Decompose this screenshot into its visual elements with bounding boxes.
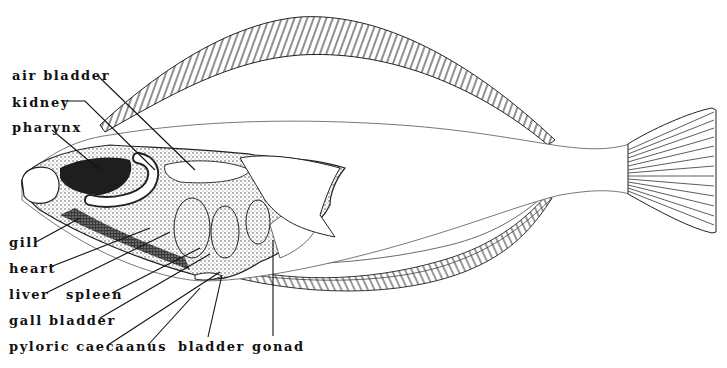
- leader-bladder: [208, 275, 222, 337]
- leader-anus: [148, 288, 200, 345]
- label-anus: anus: [126, 340, 167, 354]
- fish-anatomy-diagram: air bladder kidney pharynx gill heart li…: [0, 0, 727, 368]
- label-spleen: spleen: [66, 288, 123, 302]
- leader-pyloric-caeca: [108, 272, 220, 345]
- label-heart: heart: [9, 262, 56, 276]
- label-gall-bladder: gall bladder: [9, 314, 116, 328]
- label-gill: gill: [9, 236, 39, 250]
- label-bladder: bladder: [178, 340, 245, 354]
- caudal-fin: [628, 108, 716, 233]
- label-air-bladder: air bladder: [12, 69, 110, 83]
- label-pharynx: pharynx: [12, 121, 82, 135]
- label-pyloric-caeca: pyloric caeca: [9, 340, 125, 354]
- label-kidney: kidney: [12, 96, 70, 110]
- label-gonad: gonad: [252, 340, 305, 354]
- label-liver: liver: [9, 288, 50, 302]
